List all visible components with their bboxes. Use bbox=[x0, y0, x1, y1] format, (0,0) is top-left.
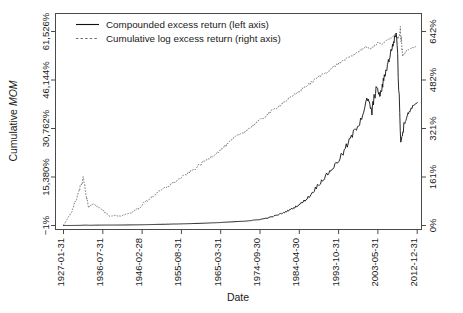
plot-frame bbox=[56, 14, 422, 230]
right-tick-label-2: 321% bbox=[427, 116, 438, 141]
right-axis-tick-labels: 0% 161% 321% 482% 642% bbox=[427, 19, 438, 233]
x-tick-label-7: 1993-10-31 bbox=[330, 238, 341, 287]
y-axis-title-plain: Cumulative bbox=[7, 106, 19, 161]
x-tick-label-6: 1984-04-30 bbox=[290, 238, 301, 287]
x-tick-label-9: 2012-12-31 bbox=[408, 238, 419, 287]
y-axis-title-italic: MOM bbox=[7, 80, 19, 106]
left-tick-label-4: 61,526% bbox=[40, 12, 51, 50]
chart-figure: −1% 15,380% 30,762% 46,144% 61,526% 0% 1… bbox=[0, 0, 463, 313]
x-tick-label-1: 1936-07-31 bbox=[94, 238, 105, 287]
x-tick-label-4: 1965-03-31 bbox=[212, 238, 223, 287]
right-axis-ticks bbox=[422, 32, 427, 226]
legend-label-1: Cumulative log excess return (right axis… bbox=[106, 33, 281, 44]
left-tick-label-2: 30,762% bbox=[40, 109, 51, 147]
chart-legend: Compounded excess return (left axis) Cum… bbox=[76, 19, 281, 44]
left-axis-tick-labels: −1% 15,380% 30,762% 46,144% 61,526% bbox=[40, 12, 51, 235]
x-tick-label-0: 1927-01-31 bbox=[55, 238, 66, 287]
x-tick-label-8: 2003-05-31 bbox=[369, 238, 380, 287]
right-tick-label-3: 482% bbox=[427, 67, 438, 92]
x-tick-label-3: 1955-08-31 bbox=[172, 238, 183, 287]
x-axis-tick-labels: 1927-01-31 1936-07-31 1946-02-28 1955-08… bbox=[55, 238, 420, 287]
right-tick-label-1: 161% bbox=[427, 164, 438, 189]
right-tick-label-0: 0% bbox=[427, 218, 438, 232]
series-cumulative-log-excess-return bbox=[64, 26, 418, 224]
chart-canvas: −1% 15,380% 30,762% 46,144% 61,526% 0% 1… bbox=[0, 0, 463, 313]
series-compounded-excess-return bbox=[64, 33, 418, 226]
legend-label-0: Compounded excess return (left axis) bbox=[106, 19, 269, 30]
x-axis-title: Date bbox=[227, 291, 249, 303]
right-tick-label-4: 642% bbox=[427, 19, 438, 44]
left-tick-label-3: 46,144% bbox=[40, 61, 51, 99]
x-axis-ticks bbox=[64, 230, 418, 235]
left-tick-label-1: 15,380% bbox=[40, 158, 51, 196]
x-tick-label-2: 1946-02-28 bbox=[133, 238, 144, 287]
y-axis-title: Cumulative MOM bbox=[7, 80, 19, 161]
x-tick-label-5: 1974-09-30 bbox=[251, 238, 262, 287]
left-axis-ticks bbox=[51, 32, 56, 226]
left-tick-label-0: −1% bbox=[40, 215, 51, 235]
